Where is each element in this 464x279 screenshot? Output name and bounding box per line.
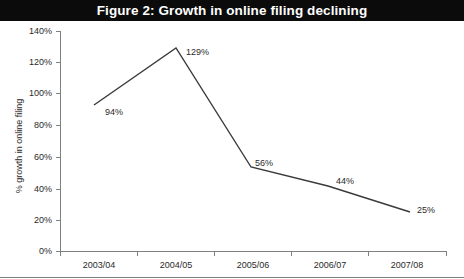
y-tick-label: 60% bbox=[34, 152, 52, 162]
figure-bottom-rule bbox=[0, 277, 464, 278]
line-chart-plot: 140% 120% 100% 80% 60% 40% 20% 0% 2003/0… bbox=[0, 0, 464, 279]
y-tick-label: 0% bbox=[39, 246, 52, 256]
x-axis-ticks bbox=[61, 252, 447, 257]
x-tick-label: 2006/07 bbox=[314, 260, 347, 270]
x-tick-label: 2007/08 bbox=[391, 260, 424, 270]
y-tick-label: 20% bbox=[34, 215, 52, 225]
y-tick-label: 80% bbox=[34, 120, 52, 130]
data-point-label: 94% bbox=[105, 107, 123, 117]
y-tick-label: 40% bbox=[34, 184, 52, 194]
data-series-line bbox=[94, 48, 410, 212]
y-tick-label: 140% bbox=[29, 26, 52, 36]
data-point-label: 25% bbox=[417, 205, 435, 215]
y-tick-label: 120% bbox=[29, 57, 52, 67]
data-point-label: 56% bbox=[255, 158, 273, 168]
x-tick-label: 2004/05 bbox=[160, 260, 193, 270]
data-point-label: 129% bbox=[186, 47, 209, 57]
y-tick-label: 100% bbox=[29, 88, 52, 98]
data-point-label: 44% bbox=[336, 176, 354, 186]
x-tick-label: 2005/06 bbox=[237, 260, 270, 270]
x-tick-label: 2003/04 bbox=[83, 260, 116, 270]
y-axis-ticks bbox=[56, 32, 61, 252]
figure-container: Figure 2: Growth in online filing declin… bbox=[0, 0, 464, 279]
